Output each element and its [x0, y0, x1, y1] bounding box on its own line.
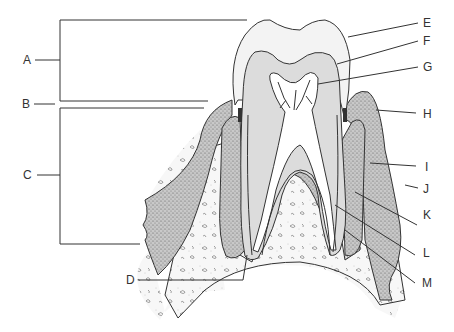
label-d: D	[126, 273, 135, 287]
attachment-right	[343, 108, 347, 122]
label-l: L	[423, 246, 430, 260]
label-a: A	[23, 53, 31, 67]
bracket-a	[35, 20, 247, 101]
alveolar-bone-right	[342, 120, 365, 256]
label-g: G	[423, 60, 432, 74]
label-h: H	[423, 107, 432, 121]
tooth-diagram: A B C D E F G H I J K L M	[0, 0, 454, 332]
label-e: E	[423, 16, 431, 30]
label-b: B	[22, 97, 30, 111]
leader-h	[376, 110, 416, 113]
attachment-left	[238, 108, 242, 122]
leader-j	[405, 185, 418, 188]
label-i: I	[425, 160, 428, 174]
label-m: M	[422, 276, 432, 290]
label-k: K	[423, 208, 431, 222]
label-f: F	[423, 34, 430, 48]
label-j: J	[423, 182, 429, 196]
label-c: C	[23, 168, 32, 182]
leader-e	[348, 23, 418, 37]
